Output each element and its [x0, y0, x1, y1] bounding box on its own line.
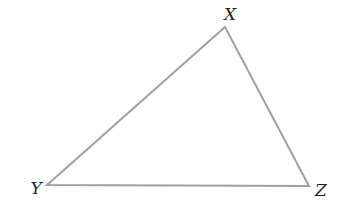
vertex-label-y: Y: [30, 178, 43, 198]
vertex-label-x: X: [222, 4, 237, 24]
triangle-diagram: X Y Z: [0, 0, 341, 205]
triangle-xyz: [47, 27, 309, 186]
vertex-label-z: Z: [314, 180, 328, 200]
